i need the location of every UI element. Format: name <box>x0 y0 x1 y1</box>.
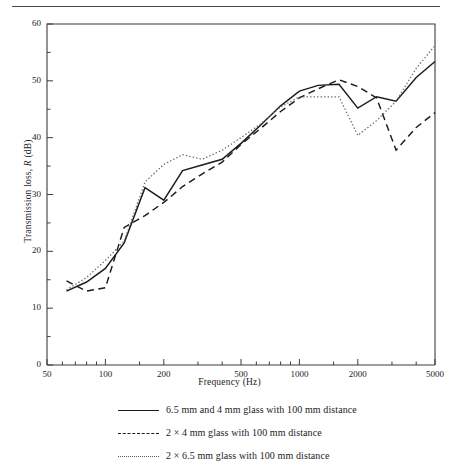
figure-container: Frequency (Hz) Transmission loss, R (dB)… <box>0 0 459 470</box>
legend-line-sample-solid <box>118 405 159 415</box>
y-tick-label: 50 <box>11 75 41 85</box>
series-line-dashed <box>66 80 435 291</box>
legend-item: 2 × 4 mm glass with 100 mm distance <box>0 421 459 444</box>
x-tick-label: 100 <box>85 369 125 379</box>
x-tick-label: 50 <box>27 369 67 379</box>
y-tick-label: 40 <box>11 132 41 142</box>
legend-line-sample-dashed <box>118 428 159 438</box>
legend-item-label: 2 × 6.5 mm glass with 100 mm distance <box>166 450 330 461</box>
y-tick-label: 60 <box>11 18 41 28</box>
x-tick-label: 1000 <box>279 369 319 379</box>
legend-item: 2 × 6.5 mm glass with 100 mm distance <box>0 444 459 467</box>
y-tick-label: 20 <box>11 245 41 255</box>
x-tick-label: 500 <box>221 369 261 379</box>
y-tick-label: 10 <box>11 302 41 312</box>
chart-legend: 6.5 mm and 4 mm glass with 100 mm distan… <box>0 398 459 467</box>
legend-line-sample-dotted <box>118 451 159 461</box>
x-tick-label: 200 <box>144 369 184 379</box>
series-group <box>66 46 435 292</box>
x-tick-label: 5000 <box>415 369 455 379</box>
series-line-dotted <box>66 46 435 290</box>
legend-item: 6.5 mm and 4 mm glass with 100 mm distan… <box>0 398 459 421</box>
y-tick-label: 30 <box>11 189 41 199</box>
y-tick-label: 0 <box>11 359 41 369</box>
series-line-solid <box>66 62 435 292</box>
legend-item-label: 6.5 mm and 4 mm glass with 100 mm distan… <box>166 404 357 415</box>
axes-group <box>47 24 435 365</box>
legend-item-label: 2 × 4 mm glass with 100 mm distance <box>166 427 322 438</box>
x-tick-label: 2000 <box>338 369 378 379</box>
